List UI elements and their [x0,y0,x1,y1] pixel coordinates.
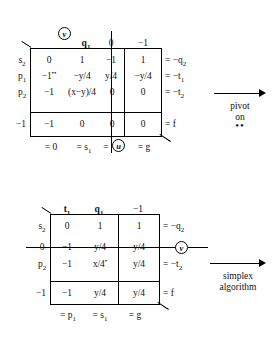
upper-rhs-r3: = f [165,119,176,129]
upper-tableau-corner-tick-tl [21,41,31,48]
lower-cell-r2c0: −1 [52,259,82,269]
upper-cell-r1c0: −1•• [32,71,66,81]
lower-cell-r0c0: 0 [52,221,82,231]
pivot-arrow-head [259,89,266,97]
lower-cell-r0c1: 1 [82,221,118,231]
lower-cell-r1c1: y/4 [82,242,118,252]
simplex-arrow [210,258,266,269]
upper-row-label-s2: s2 [14,55,30,65]
lower-cell-r1c0: −1 [52,242,82,252]
upper-cell-r0c2: −1 [98,55,124,65]
lower-bottom-label-p1: = p1 [52,310,84,320]
upper-cell-r1c2: y/4 [98,71,124,81]
upper-rhs-r0: = −q2 [165,55,186,65]
lower-bottom-label-s1: = s1 [84,310,116,320]
upper-cell-r0c0: 0 [32,55,66,65]
upper-cell-r2c2: 0 [100,87,124,97]
upper-tableau-row-divider [30,112,162,113]
lower-cell-r3c2: y/4 [118,288,160,298]
upper-tableau-corner-tick-br [159,134,171,142]
lower-row-label-p2: p2 [34,259,50,269]
upper-cell-r0c1: 1 [66,55,98,65]
lower-row-label-s2: s2 [34,221,50,231]
pivot-arrow-label-line1: pivot [214,101,266,112]
lower-tableau-corner-tick-br [157,302,169,310]
lower-bottom-label-g: = g [118,310,152,320]
lower-cell-r3c0: −1 [52,288,82,298]
lower-cell-r1c2: y/4 [118,242,160,252]
lower-col-header-minus1: −1 [120,204,156,214]
upper-cell-r2c1: (x−y)/4 [62,87,102,97]
upper-cell-r3c0: −1 [32,119,66,129]
upper-cell-r1c1: −y/4 [66,71,98,81]
upper-bottom-label-g: = g [128,142,160,152]
upper-cell-r3c1: 0 [66,119,98,129]
simplex-arrow-label-line2: algorithm [203,282,273,293]
upper-cell-r2c0: −1 [32,87,66,97]
lower-row-label-objective: −1 [32,288,50,298]
pivot-variable-v-circle-upper: v [58,27,71,40]
lower-row-label-zero-struck: 0 [34,242,50,252]
upper-cell-r0c3: 1 [124,55,162,65]
lower-rhs-r3: = f [163,288,174,298]
lower-tableau-corner-tick-tl [41,207,51,214]
lower-rhs-r0: = −q2 [163,221,184,231]
upper-row-label-p2: p2 [14,87,30,97]
upper-rhs-r1: = −t1 [165,71,184,81]
upper-bottom-label-u-equals: = [99,142,113,152]
upper-col-header-minus1: −1 [126,38,160,48]
pivot-variable-v-circle-lower: v [175,241,188,254]
simplex-arrow-head [259,259,266,267]
pivot-arrow [214,88,266,99]
simplex-arrow-shaft [210,263,259,264]
simplex-arrow-label-line1: simplex [206,271,270,282]
upper-bottom-label-s1: = s1 [68,142,100,152]
pivot-variable-u-circle: u [112,139,125,152]
figure-root: v q1 0 −1 s2 p1 p2 −1 0 1 −1 1 = −q2 −1•… [0,0,277,348]
lower-cell-r0c2: 1 [118,221,160,231]
upper-cell-r1c3: −y/4 [124,71,162,81]
lower-cell-r2c2: y/4 [118,259,160,269]
upper-rhs-r2: = −t2 [165,87,184,97]
pivot-arrow-label-line3: •• [214,120,266,131]
lower-col-header-t1: t1 [52,204,82,214]
upper-row-label-objective: −1 [12,119,30,129]
upper-col-header-zero: 0 [99,38,123,48]
lower-tableau-row-strike-tail [188,247,208,248]
lower-cell-r2c1: x/4• [82,259,118,269]
pivot-arrow-shaft [214,93,259,94]
upper-cell-r3c2: 0 [100,119,124,129]
upper-bottom-label-0: = 0 [35,142,67,152]
upper-row-label-p1: p1 [14,71,30,81]
upper-cell-r3c3: 0 [124,119,162,129]
lower-cell-r3c1: y/4 [82,288,118,298]
upper-cell-r2c3: 0 [124,87,162,97]
lower-rhs-r2: = −t2 [163,259,182,269]
lower-tableau-row-divider [50,281,160,282]
lower-col-header-q1: q1 [82,204,116,214]
upper-col-header-q1: q1 [72,38,100,48]
